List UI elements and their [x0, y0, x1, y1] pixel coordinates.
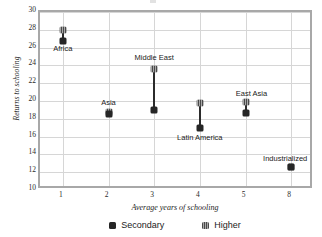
y-axis-tick-label: 16 [29, 131, 37, 139]
chart-legend: SecondaryHigher [38, 218, 312, 232]
chart-figure: Returns to schooling 3028262422201816141… [0, 0, 322, 237]
y-axis-tick-label: 18 [29, 113, 37, 121]
gridline-horizontal [40, 65, 310, 66]
x-axis-tick-label: 2 [105, 190, 109, 199]
data-point-secondary [288, 163, 295, 170]
data-point-label: Africa [53, 44, 72, 53]
x-axis-title: Average years of schooling [38, 203, 312, 212]
legend-swatch-icon [202, 222, 209, 229]
gridline-horizontal [40, 12, 310, 13]
data-point-label: Industrialized [263, 154, 307, 163]
x-axis-tick-label: 1 [59, 190, 63, 199]
gridline-horizontal [40, 137, 310, 138]
legend-item[interactable]: Secondary [109, 220, 164, 230]
data-connector-line [153, 69, 155, 110]
legend-item[interactable]: Higher [202, 220, 241, 230]
gridline-horizontal [40, 119, 310, 120]
gridline-horizontal [40, 83, 310, 84]
data-point-higher [59, 26, 66, 33]
gridline-horizontal [40, 48, 310, 49]
plot-area: AfricaAsiaMiddle EastLatin AmericaEast A… [38, 10, 312, 188]
x-axis-tick-labels: 123458 [38, 190, 312, 202]
y-axis-tick-label: 22 [29, 77, 37, 85]
y-axis-tick-labels: 3028262422201816141210 [18, 10, 38, 188]
data-point-label: Asia [101, 98, 116, 107]
x-axis-tick-label: 3 [150, 190, 154, 199]
y-axis-tick-label: 30 [29, 6, 37, 14]
data-point-higher [196, 99, 203, 106]
x-axis-tick-label: 4 [196, 190, 200, 199]
y-axis-tick-label: 20 [29, 95, 37, 103]
y-axis-tick-label: 24 [29, 59, 37, 67]
gridline-horizontal [40, 101, 310, 102]
data-point-label: East Asia [236, 89, 267, 98]
gridline-horizontal [40, 172, 310, 173]
y-axis-tick-label: 10 [29, 184, 37, 192]
data-point-higher [151, 65, 158, 72]
y-axis-tick-label: 28 [29, 24, 37, 32]
legend-swatch-icon [109, 222, 116, 229]
y-axis-tick-label: 26 [29, 42, 37, 50]
y-axis-tick-label: 14 [29, 148, 37, 156]
x-axis-tick-label: 5 [242, 190, 246, 199]
x-axis-tick-label: 8 [287, 190, 291, 199]
data-point-secondary [196, 124, 203, 131]
scan-artifact [150, 0, 156, 3]
data-point-higher [242, 98, 249, 105]
legend-label: Higher [214, 220, 241, 230]
data-point-secondary [151, 106, 158, 113]
gridline-horizontal [40, 30, 310, 31]
data-point-secondary [105, 111, 112, 118]
data-point-label: Middle East [135, 53, 174, 62]
legend-label: Secondary [121, 220, 164, 230]
data-point-secondary [242, 110, 249, 117]
plot-canvas: AfricaAsiaMiddle EastLatin AmericaEast A… [40, 12, 310, 186]
data-point-label: Latin America [177, 133, 222, 142]
y-axis-tick-label: 12 [29, 166, 37, 174]
